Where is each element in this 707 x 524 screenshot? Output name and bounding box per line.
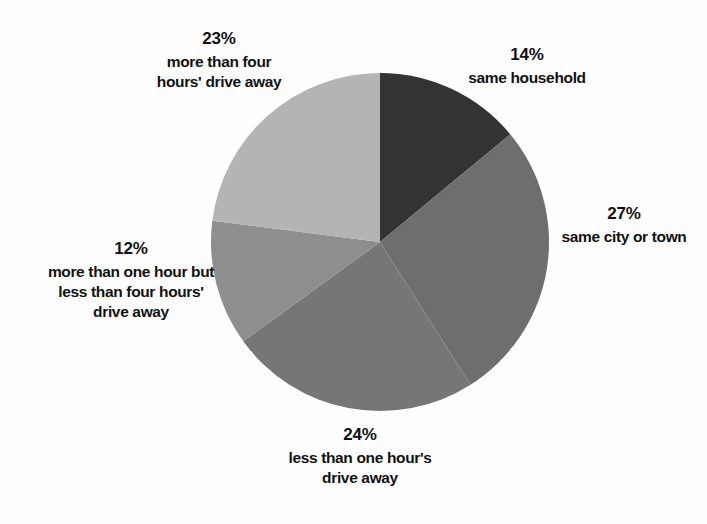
pie-label-percent: 14% [432, 44, 622, 66]
pie-label-same-household: 14% same household [432, 44, 622, 88]
pie-label-text: more than four hours' drive away [112, 52, 326, 92]
pie-slice-group [211, 73, 549, 411]
pie-label-more-than-four-hours: 23% more than four hours' drive away [112, 28, 326, 92]
pie-chart-page: 14% same household 27% same city or town… [0, 0, 707, 524]
pie-slice [212, 73, 380, 242]
pie-label-percent: 12% [12, 238, 250, 260]
pie-label-text: more than one hour but less than four ho… [12, 262, 250, 322]
pie-label-same-city-or-town: 27% same city or town [540, 203, 707, 247]
pie-label-percent: 23% [112, 28, 326, 50]
pie-label-percent: 27% [540, 203, 707, 225]
pie-label-one-to-four-hours: 12% more than one hour but less than fou… [12, 238, 250, 323]
pie-label-text: less than one hour's drive away [244, 448, 476, 488]
pie-label-less-than-one-hour: 24% less than one hour's drive away [244, 424, 476, 488]
pie-label-text: same household [432, 68, 622, 88]
pie-label-percent: 24% [244, 424, 476, 446]
pie-label-text: same city or town [540, 227, 707, 247]
